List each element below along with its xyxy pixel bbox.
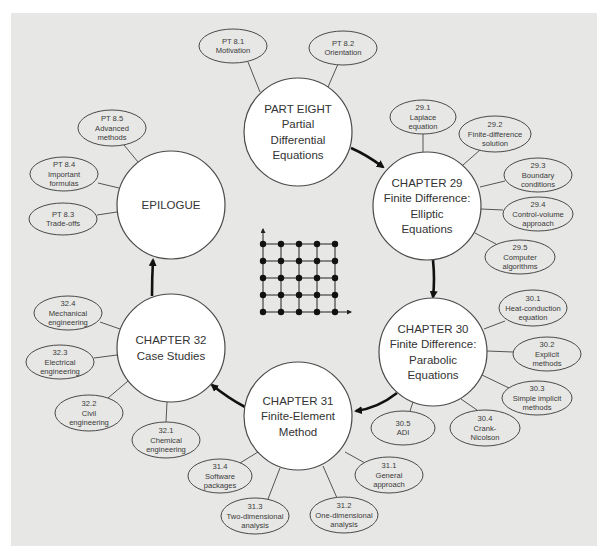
- subtopic-number: 31.3: [248, 502, 263, 511]
- subtopic-31-2: 31.2One-dimensionalanalysis: [310, 497, 378, 533]
- subtopic-label: Mechanical: [49, 309, 88, 318]
- node-title: CHAPTER 30: [398, 323, 469, 335]
- subtopic-label: Software: [205, 472, 235, 481]
- main-node-circle: [244, 78, 352, 186]
- subtopic-label: Nicolson: [470, 433, 499, 442]
- node-subtitle: Finite Difference:: [390, 338, 477, 350]
- grid-node-dot: [332, 275, 338, 281]
- subtopic-number: 29.4: [531, 200, 546, 209]
- node-subtitle: Equations: [401, 223, 452, 235]
- node-title: CHAPTER 31: [263, 395, 334, 407]
- subtopic-number: 29.2: [488, 120, 503, 129]
- subtopic-label: Explicit: [535, 350, 560, 359]
- subtopic-label: Trade-offs: [46, 219, 80, 228]
- node-subtitle: Equations: [272, 149, 323, 161]
- grid-node-dot: [260, 258, 266, 264]
- subtopic-29-4: 29.4Control-volumeapproach: [503, 197, 573, 231]
- subtopic-29-2: 29.2Finite-differencesolution: [459, 116, 531, 152]
- subtopic-label: Boundary: [522, 171, 555, 180]
- subtopic-number: PT 8.1: [222, 37, 244, 46]
- node-part-eight: PART EIGHTPartialDifferentialEquations: [244, 78, 352, 186]
- node-chapter-32: CHAPTER 32Case Studies: [117, 294, 225, 402]
- subtopic-label: analysis: [330, 520, 358, 529]
- flow-arrow-chapter-29-to-chapter-30: [433, 260, 434, 297]
- subtopic-31-3: 31.3Two-dimensionalanalysis: [221, 498, 289, 534]
- subtopic-number: PT 8.2: [332, 39, 354, 48]
- grid-node-dot: [260, 292, 266, 298]
- subtopic-label: equation: [518, 313, 547, 322]
- main-node-circle: [117, 294, 225, 402]
- subtopic-29-1: 29.1Laplaceequation: [390, 100, 456, 134]
- subtopic-number: PT 8.5: [101, 114, 123, 123]
- node-subtitle: Elliptic: [410, 208, 443, 220]
- subtopic-label: Control-volume: [512, 210, 564, 219]
- grid-node-dot: [314, 309, 320, 315]
- subtopic-30-1: 30.1Heat-conductionequation: [499, 290, 567, 326]
- subtopic-32-1: 32.1Chemicalengineering: [132, 422, 200, 458]
- grid-node-dot: [278, 275, 284, 281]
- subtopic-number: 31.4: [213, 462, 228, 471]
- subtopic-label: One-dimensional: [315, 511, 373, 520]
- subtopic-label: algorithms: [502, 262, 537, 271]
- subtopic-label: analysis: [241, 521, 269, 530]
- subtopic-number: 32.1: [159, 426, 174, 435]
- subtopic-30-5: 30.5ADI: [371, 411, 435, 445]
- node-epilogue: EPILOGUE: [117, 151, 225, 259]
- subtopic-pt-8-4: PT 8.4Importantformulas: [30, 157, 98, 191]
- subtopic-label: engineering: [48, 318, 88, 327]
- main-node-circle: [373, 152, 481, 260]
- subtopic-label: conditions: [521, 180, 555, 189]
- grid-node-dot: [314, 292, 320, 298]
- subtopic-31-4: 31.4Softwarepackages: [188, 459, 252, 493]
- subtopic-pt-8-5: PT 8.5Advancedmethods: [78, 110, 146, 146]
- subtopic-number: 30.5: [396, 419, 411, 428]
- node-chapter-29: CHAPTER 29Finite Difference:EllipticEqua…: [373, 152, 481, 260]
- subtopic-label: Civil: [82, 409, 97, 418]
- subtopic-label: General: [375, 471, 402, 480]
- subtopic-32-4: 32.4Mechanicalengineering: [34, 296, 102, 330]
- node-subtitle: Equations: [407, 369, 458, 381]
- subtopic-number: 30.1: [526, 294, 541, 303]
- node-title: EPILOGUE: [142, 199, 201, 211]
- node-chapter-31: CHAPTER 31Finite-ElementMethod: [244, 362, 352, 470]
- grid-node-dot: [278, 258, 284, 264]
- subtopic-29-3: 29.3Boundaryconditions: [504, 158, 572, 192]
- grid-node-dot: [296, 309, 302, 315]
- grid-node-dot: [278, 292, 284, 298]
- subtopic-label: approach: [522, 219, 554, 228]
- subtopic-number: 29.3: [531, 161, 546, 170]
- subtopic-number: PT 8.3: [52, 210, 74, 219]
- node-title: PART EIGHT: [264, 103, 332, 115]
- subtopic-number: 32.4: [61, 299, 76, 308]
- grid-node-dot: [296, 241, 302, 247]
- node-title: CHAPTER 32: [136, 334, 207, 346]
- subtopic-pt-8-1: PT 8.1Motivation: [199, 29, 267, 63]
- subtopic-30-2: 30.2Explicitmethods: [513, 337, 581, 371]
- flow-arrow-chapter-32-to-epilogue: [152, 260, 153, 296]
- node-subtitle: Finite-Element: [261, 410, 336, 422]
- subtopic-label: Motivation: [216, 46, 251, 55]
- subtopic-label: formulas: [49, 179, 78, 188]
- subtopic-29-5: 29.5Computeralgorithms: [485, 240, 555, 274]
- subtopic-label: Finite-difference: [468, 130, 522, 139]
- node-subtitle: Differential: [271, 134, 326, 146]
- node-chapter-30: CHAPTER 30Finite Difference:ParabolicEqu…: [379, 298, 487, 406]
- subtopic-label: ADI: [397, 428, 410, 437]
- node-subtitle: Method: [279, 426, 317, 438]
- subtopic-label: Orientation: [324, 48, 361, 57]
- subtopic-label: equation: [408, 122, 437, 131]
- subtopic-number: 32.3: [53, 348, 68, 357]
- node-subtitle: Partial: [282, 118, 315, 130]
- subtopic-label: Computer: [503, 253, 537, 262]
- subtopic-number: 32.2: [82, 399, 97, 408]
- subtopic-number: 30.4: [478, 414, 493, 423]
- grid-node-dot: [332, 309, 338, 315]
- grid-node-dot: [332, 241, 338, 247]
- subtopic-30-4: 30.4Crank-Nicolson: [450, 410, 520, 446]
- grid-node-dot: [260, 241, 266, 247]
- grid-node-dot: [296, 258, 302, 264]
- subtopic-pt-8-3: PT 8.3Trade-offs: [29, 203, 97, 235]
- subtopic-label: methods: [97, 133, 126, 142]
- subtopic-pt-8-2: PT 8.2Orientation: [309, 31, 377, 65]
- subtopic-number: PT 8.4: [53, 160, 75, 169]
